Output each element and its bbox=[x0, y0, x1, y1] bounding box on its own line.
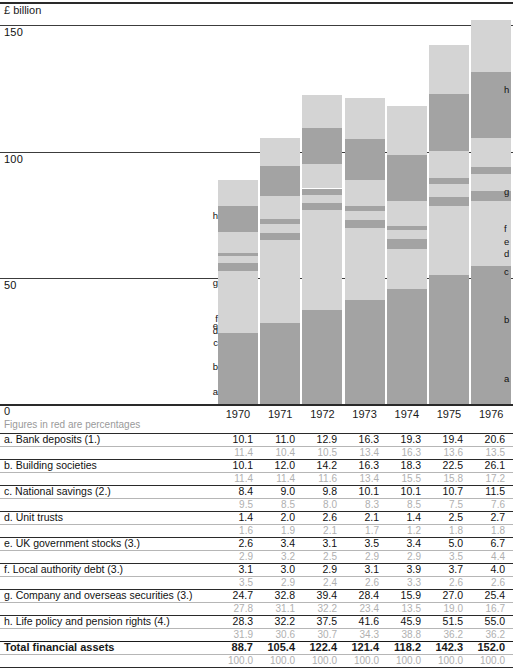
table-row-5: f. Local authority debt (3.)3.13.02.93.1… bbox=[0, 563, 513, 576]
table-row-6-cell-1976: 25.4 bbox=[471, 589, 513, 602]
chart-top-rule bbox=[0, 2, 513, 4]
table-row-4-cell-1970: 2.6 bbox=[218, 537, 261, 550]
table-row-7-cell-1975: 51.5 bbox=[429, 615, 471, 628]
table-row-0: a. Bank deposits (1.)10.111.012.916.319.… bbox=[0, 433, 513, 446]
bar-segment-b-1975 bbox=[429, 94, 469, 151]
bar-segment-c-1974 bbox=[387, 201, 427, 227]
segment-key-f-1970: f bbox=[206, 314, 218, 324]
table-row-5-pct: 3.52.92.42.63.32.62.6 bbox=[0, 576, 513, 589]
table-row-3-pct: 1.61.92.11.71.21.81.8 bbox=[0, 524, 513, 537]
table-row-1-pct-cell-1972: 11.6 bbox=[303, 472, 345, 485]
table-row-2-pct-cell-1971: 8.5 bbox=[261, 498, 303, 511]
table-row-0-pct-cell-1972: 10.5 bbox=[303, 446, 345, 459]
row-pct-label-6 bbox=[0, 602, 218, 615]
bar-segment-b-1971 bbox=[260, 166, 300, 196]
table-row-4-cell-1972: 3.1 bbox=[303, 537, 345, 550]
row-label-5: f. Local authority debt (3.) bbox=[0, 563, 218, 576]
total-row-cell-1975: 142.3 bbox=[429, 641, 471, 654]
bar-segment-g-1973 bbox=[345, 228, 385, 300]
table-row-0-pct-cell-1974: 16.3 bbox=[387, 446, 429, 459]
table-row-4-pct-cell-1972: 2.5 bbox=[303, 550, 345, 563]
table-row-3-cell-1971: 2.0 bbox=[261, 511, 303, 524]
table-row-5-pct-cell-1971: 2.9 bbox=[261, 576, 303, 589]
bar-segment-f-1972 bbox=[302, 203, 342, 210]
row-label-4: e. UK government stocks (3.) bbox=[0, 537, 218, 550]
segment-key-h-1976: h bbox=[504, 85, 513, 95]
year-tick-1975: 1975 bbox=[429, 408, 469, 420]
table-row-6-pct-cell-1974: 13.5 bbox=[387, 602, 429, 615]
segment-key-c-1970: c bbox=[206, 338, 218, 348]
table-row-0-cell-1973: 16.3 bbox=[345, 433, 387, 446]
bar-segment-g-1972 bbox=[302, 210, 342, 310]
segment-key-g-1976: g bbox=[504, 187, 513, 197]
table-row-1-cell-1970: 10.1 bbox=[218, 459, 261, 472]
table-row-3-pct-cell-1971: 1.9 bbox=[261, 524, 303, 537]
table-row-2-cell-1973: 10.1 bbox=[345, 485, 387, 498]
axis-tick-100: 100 bbox=[4, 154, 23, 165]
bar-segment-e-1975 bbox=[429, 184, 469, 197]
bar-1970 bbox=[218, 180, 258, 405]
bar-segment-h-1970 bbox=[218, 333, 258, 405]
bar-segment-b-1973 bbox=[345, 139, 385, 180]
bar-segment-d-1976 bbox=[471, 167, 511, 174]
table-row-5-cell-1971: 3.0 bbox=[261, 563, 303, 576]
total-row-cell-1973: 121.4 bbox=[345, 641, 387, 654]
table-row-7-pct-cell-1974: 38.8 bbox=[387, 628, 429, 641]
bar-segment-a-1976 bbox=[471, 20, 511, 72]
table-row-3-cell-1972: 2.6 bbox=[303, 511, 345, 524]
total-row-pct-label bbox=[0, 654, 218, 667]
table-row-2-cell-1970: 8.4 bbox=[218, 485, 261, 498]
bar-segment-f-1970 bbox=[218, 263, 258, 271]
table-row-2-cell-1971: 9.0 bbox=[261, 485, 303, 498]
table-row-1-pct-cell-1975: 15.8 bbox=[429, 472, 471, 485]
row-label-0: a. Bank deposits (1.) bbox=[0, 433, 218, 446]
bar-segment-g-1970 bbox=[218, 271, 258, 334]
bar-segment-g-1975 bbox=[429, 206, 469, 274]
table-row-7-pct-cell-1970: 31.9 bbox=[218, 628, 261, 641]
total-row-pct-cell-1973: 100.0 bbox=[345, 654, 387, 667]
table-row-3-pct-cell-1972: 2.1 bbox=[303, 524, 345, 537]
bar-segment-c-1972 bbox=[302, 164, 342, 189]
table-row-7-pct-cell-1973: 34.3 bbox=[345, 628, 387, 641]
table-row-5-cell-1976: 4.0 bbox=[471, 563, 513, 576]
table-row-6-cell-1970: 24.7 bbox=[218, 589, 261, 602]
table-row-7-pct-cell-1976: 36.2 bbox=[471, 628, 513, 641]
table-row-3-cell-1975: 2.5 bbox=[429, 511, 471, 524]
table-row-5-pct-cell-1970: 3.5 bbox=[218, 576, 261, 589]
bar-segment-f-1975 bbox=[429, 197, 469, 206]
bar-1973 bbox=[345, 98, 385, 406]
table-row-5-cell-1974: 3.9 bbox=[387, 563, 429, 576]
bar-segment-b-1970 bbox=[218, 206, 258, 232]
bar-segment-f-1974 bbox=[387, 239, 427, 249]
bar-1976 bbox=[471, 20, 511, 405]
gridline-150 bbox=[0, 25, 513, 26]
row-label-7: h. Life policy and pension rights (4.) bbox=[0, 615, 218, 628]
table-row-4-cell-1974: 3.4 bbox=[387, 537, 429, 550]
table-row-6-pct-cell-1972: 32.2 bbox=[303, 602, 345, 615]
table-row-4: e. UK government stocks (3.)2.63.43.13.5… bbox=[0, 537, 513, 550]
table-row-1: b. Building societies10.112.014.216.318.… bbox=[0, 459, 513, 472]
table-row-3-cell-1976: 2.7 bbox=[471, 511, 513, 524]
table-row-2-pct-cell-1970: 9.5 bbox=[218, 498, 261, 511]
table-row-0-cell-1975: 19.4 bbox=[429, 433, 471, 446]
table-row-1-cell-1971: 12.0 bbox=[261, 459, 303, 472]
row-pct-label-3 bbox=[0, 524, 218, 537]
table-row-2-cell-1972: 9.8 bbox=[303, 485, 345, 498]
total-row-cell-1970: 88.7 bbox=[218, 641, 261, 654]
bar-segment-b-1976 bbox=[471, 72, 511, 138]
table-row-2-pct: 9.58.58.08.38.57.57.6 bbox=[0, 498, 513, 511]
table-row-4-cell-1973: 3.5 bbox=[345, 537, 387, 550]
table-row-4-pct-cell-1975: 3.5 bbox=[429, 550, 471, 563]
table-row-2-pct-cell-1972: 8.0 bbox=[303, 498, 345, 511]
table-row-4-cell-1971: 3.4 bbox=[261, 537, 303, 550]
table-row-0-pct-cell-1973: 13.4 bbox=[345, 446, 387, 459]
table-row-7: h. Life policy and pension rights (4.)28… bbox=[0, 615, 513, 628]
bar-segment-a-1973 bbox=[345, 98, 385, 139]
financial-assets-table: a. Bank deposits (1.)10.111.012.916.319.… bbox=[0, 433, 513, 668]
bar-segment-g-1971 bbox=[260, 240, 300, 323]
bar-segment-h-1973 bbox=[345, 300, 385, 405]
table-row-5-cell-1970: 3.1 bbox=[218, 563, 261, 576]
bar-segment-h-1972 bbox=[302, 310, 342, 405]
table-row-6: g. Company and overseas securities (3.)2… bbox=[0, 589, 513, 602]
table-row-7-pct: 31.930.630.734.338.836.236.2 bbox=[0, 628, 513, 641]
